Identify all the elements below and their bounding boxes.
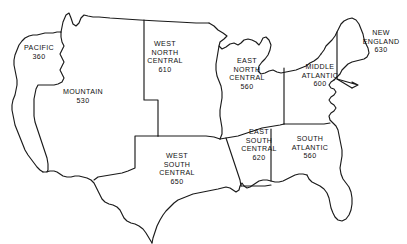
new-england-pointer-detail xyxy=(337,79,358,88)
map-outline-svg xyxy=(0,0,407,244)
west-north-central-east-north-central-border xyxy=(216,46,222,139)
northeast-border xyxy=(321,18,369,80)
west-north-central-south-border xyxy=(158,136,220,139)
southern-border xyxy=(43,171,152,243)
great-lakes-northern-border xyxy=(209,23,321,74)
pacific-mountain-border xyxy=(34,32,64,172)
gulf-division-jog xyxy=(241,185,271,186)
east-south-central-west-south-central-border xyxy=(226,138,241,186)
middle-atlantic-south-atlantic-border xyxy=(284,123,330,124)
east-north-central-southern-border xyxy=(220,124,284,139)
mountain-west-north-central-border xyxy=(144,20,158,136)
pacific-coastline xyxy=(12,32,61,172)
us-census-divisions-map: PACIFIC 360 MOUNTAIN 530 WEST NORTH CENT… xyxy=(0,0,407,244)
gulf-coastline xyxy=(152,174,307,243)
northern-border-coastline xyxy=(61,13,209,32)
mountain-west-south-central-border xyxy=(94,136,158,180)
atlantic-coastline xyxy=(307,80,352,221)
